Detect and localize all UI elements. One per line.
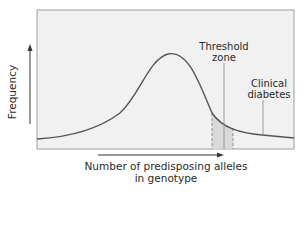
y-axis-arrowhead-icon (28, 44, 33, 51)
y-axis-label: Frequency (6, 65, 18, 119)
threshold-label-line1: Threshold (196, 41, 252, 52)
x-axis-label-line2: in genotype (76, 172, 256, 184)
clinical-diabetes-label: Clinical diabetes (240, 78, 298, 100)
clinical-label-line2: diabetes (240, 89, 298, 100)
x-axis-arrowhead-icon (217, 153, 224, 158)
x-axis-label-line1: Number of predisposing alleles (76, 160, 256, 172)
threshold-label: Threshold zone (196, 41, 252, 63)
clinical-label-line1: Clinical (240, 78, 298, 89)
threshold-label-line2: zone (196, 52, 252, 63)
x-axis-label: Number of predisposing alleles in genoty… (76, 160, 256, 184)
